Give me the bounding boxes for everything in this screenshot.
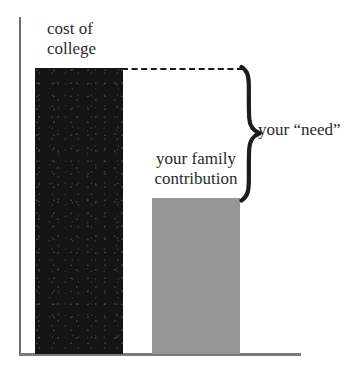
label-cost-of-college: cost of college <box>47 19 96 59</box>
college-cost-bar-chart: cost of college your family contribution… <box>0 0 353 375</box>
y-axis-line <box>19 17 21 355</box>
label-your-need: your “need” <box>258 120 341 140</box>
label-your-family-contribution: your family contribution <box>147 149 245 189</box>
bar-cost-of-college <box>35 68 123 354</box>
bar-your-family-contribution <box>152 198 240 354</box>
cost-of-college-leader-dashed-line <box>122 68 243 70</box>
